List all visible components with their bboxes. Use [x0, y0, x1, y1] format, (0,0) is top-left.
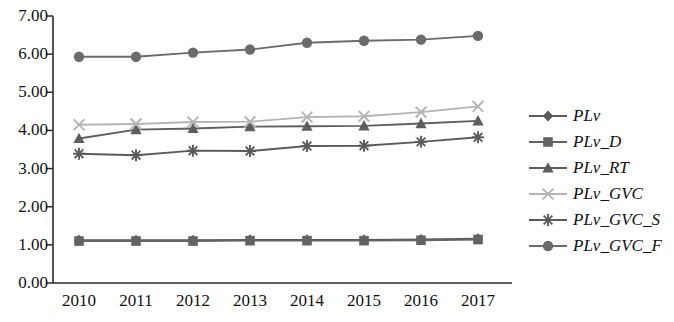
series-plv_gvc_s: [73, 131, 484, 161]
legend-item[interactable]: PLv_D: [527, 129, 673, 155]
y-axis-tick-label: 6.00: [0, 44, 48, 64]
series-plv_gvc_f: [74, 31, 483, 62]
x-axis-tick-label: 2010: [51, 291, 107, 311]
x-axis-tick-label: 2013: [222, 291, 278, 311]
y-axis-tick-label: 3.00: [0, 159, 48, 179]
legend-item[interactable]: PLv_GVC_S: [527, 207, 673, 233]
y-axis-tick-label: 7.00: [0, 6, 48, 26]
legend-label: PLv: [569, 106, 600, 126]
x-axis-tick-label: 2012: [165, 291, 221, 311]
chart-legend: PLvPLv_DPLv_RTPLv_GVCPLv_GVC_SPLv_GVC_F: [527, 103, 673, 259]
legend-marker-diamond-icon: [527, 106, 569, 126]
chart-screenshot: 0.001.002.003.004.005.006.007.00 2010201…: [0, 0, 674, 322]
legend-marker-circle-icon: [527, 236, 569, 256]
x-axis-tick-label: 2015: [336, 291, 392, 311]
legend-label: PLv_GVC_S: [569, 210, 660, 230]
x-axis-tick-label: 2017: [450, 291, 506, 311]
x-axis-tick-label: 2011: [108, 291, 164, 311]
legend-item[interactable]: PLv_GVC: [527, 181, 673, 207]
legend-marker-star-icon: [527, 210, 569, 230]
legend-label: PLv_GVC_F: [569, 236, 662, 256]
series-plv_d: [74, 235, 483, 246]
legend-marker-x-light-icon: [527, 184, 569, 204]
y-axis-tick-label: 5.00: [0, 82, 48, 102]
legend-label: PLv_RT: [569, 158, 629, 178]
legend-item[interactable]: PLv: [527, 103, 673, 129]
y-axis-tick-label: 4.00: [0, 120, 48, 140]
y-axis-tick-label: 1.00: [0, 235, 48, 255]
legend-item[interactable]: PLv_RT: [527, 155, 673, 181]
legend-label: PLv_GVC: [569, 184, 643, 204]
y-axis-tick-label: 2.00: [0, 197, 48, 217]
legend-marker-square-icon: [527, 132, 569, 152]
legend-marker-triangle-icon: [527, 158, 569, 178]
chart-series-group: [73, 31, 484, 246]
x-axis-tick-label: 2014: [279, 291, 335, 311]
line-chart-figure: 0.001.002.003.004.005.006.007.00 2010201…: [0, 0, 674, 322]
legend-label: PLv_D: [569, 132, 621, 152]
y-axis-tick-label: 0.00: [0, 273, 48, 293]
x-axis-tick-label: 2016: [393, 291, 449, 311]
legend-item[interactable]: PLv_GVC_F: [527, 233, 673, 259]
